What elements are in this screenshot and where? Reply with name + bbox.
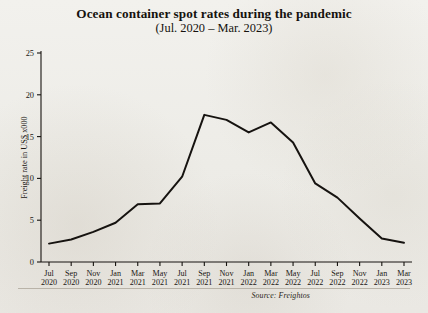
- x-axis-tick-month: Nov: [86, 269, 101, 278]
- source-attribution: Source: Freightos: [252, 291, 311, 300]
- x-axis-tick-month: Jan: [243, 269, 254, 278]
- x-axis-tick-year: 2022: [307, 278, 323, 287]
- x-axis-tick-month: Jan: [110, 269, 121, 278]
- x-axis-tick-year: 2021: [218, 278, 234, 287]
- y-axis-tick-label: 0: [30, 258, 34, 267]
- x-axis-tick-month: Jan: [376, 269, 387, 278]
- y-axis-tick-label: 5: [30, 216, 34, 225]
- x-axis-tick-month: Sep: [198, 269, 210, 278]
- x-axis-tick-year: 2022: [285, 278, 301, 287]
- x-axis-tick-month: May: [286, 269, 302, 278]
- y-axis-tick-label: 25: [26, 49, 34, 58]
- chart-plot-area: 2520151050Freight rate in US$ x000Jul202…: [0, 0, 428, 313]
- freight-rate-line-series: [49, 115, 404, 244]
- x-axis-tick-year: 2022: [241, 278, 257, 287]
- x-axis-tick-year: 2022: [352, 278, 368, 287]
- x-axis-tick-year: 2020: [85, 278, 101, 287]
- x-axis-tick-month: Mar: [264, 269, 278, 278]
- x-axis-tick-year: 2021: [174, 278, 190, 287]
- x-axis-tick-month: Mar: [131, 269, 145, 278]
- x-axis-tick-year: 2021: [130, 278, 146, 287]
- y-axis-tick-label: 20: [26, 91, 34, 100]
- x-axis-tick-year: 2023: [396, 278, 412, 287]
- x-axis-tick-month: Mar: [397, 269, 411, 278]
- x-axis-tick-year: 2021: [107, 278, 123, 287]
- footer-divider-rule: [18, 288, 410, 289]
- x-axis-tick-month: Jul: [177, 269, 187, 278]
- x-axis-tick-month: May: [153, 269, 169, 278]
- x-axis-tick-year: 2020: [63, 278, 79, 287]
- x-axis-tick-month: Nov: [353, 269, 368, 278]
- x-axis-tick-month: Sep: [331, 269, 343, 278]
- x-axis-tick-month: Sep: [65, 269, 77, 278]
- x-axis-tick-year: 2021: [152, 278, 168, 287]
- ocean-container-spot-rates-chart: Ocean container spot rates during the pa…: [0, 0, 428, 313]
- x-axis-tick-year: 2022: [329, 278, 345, 287]
- x-axis-tick-year: 2021: [196, 278, 212, 287]
- x-axis-tick-month: Jul: [311, 269, 321, 278]
- x-axis-tick-month: Jul: [44, 269, 54, 278]
- x-axis-tick-year: 2023: [374, 278, 390, 287]
- y-axis-title: Freight rate in US$ x000: [20, 116, 29, 199]
- x-axis-tick-year: 2022: [263, 278, 279, 287]
- x-axis-tick-year: 2020: [41, 278, 57, 287]
- x-axis-tick-month: Nov: [220, 269, 235, 278]
